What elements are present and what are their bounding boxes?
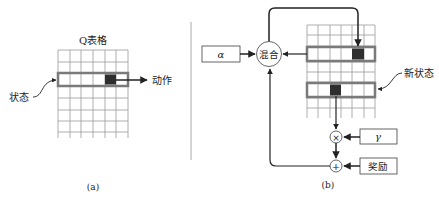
panel-b: α 混合 新状态 × γ + 奖励 (b) bbox=[202, 8, 434, 190]
current-q-cell bbox=[352, 49, 364, 60]
selected-action-cell bbox=[105, 75, 116, 85]
caption-a: (a) bbox=[87, 182, 99, 192]
state-arrow bbox=[33, 80, 56, 97]
update-loop-arrow bbox=[269, 8, 358, 46]
q-table-grid bbox=[58, 50, 128, 138]
state-label: 状态 bbox=[9, 91, 29, 103]
alpha-label: α bbox=[218, 49, 225, 60]
max-next-q-cell bbox=[330, 85, 341, 96]
new-state-label: 新状态 bbox=[404, 67, 434, 79]
new-state-arrow bbox=[378, 73, 402, 89]
reward-label: 奖励 bbox=[368, 161, 388, 172]
caption-b: (b) bbox=[322, 180, 335, 190]
panel-a: Q表格 bbox=[9, 34, 172, 192]
gamma-label: γ bbox=[375, 131, 381, 142]
q-table-title: Q表格 bbox=[79, 34, 107, 46]
action-label: 动作 bbox=[152, 75, 172, 86]
multiply-symbol: × bbox=[332, 133, 340, 143]
add-symbol: + bbox=[332, 161, 340, 172]
q-table-grid-b bbox=[307, 25, 375, 118]
mix-label: 混合 bbox=[259, 49, 279, 60]
